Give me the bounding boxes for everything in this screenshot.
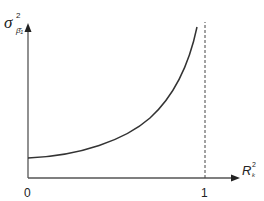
x-axis-label: R 2 k xyxy=(242,164,251,177)
x-label-superscript: 2 xyxy=(252,161,256,168)
x-tick-zero: 0 xyxy=(24,187,31,199)
x-label-subscript: k xyxy=(252,172,255,178)
chart-canvas xyxy=(0,0,264,201)
variance-curve xyxy=(28,27,197,158)
x-axis-arrow-icon xyxy=(231,175,240,182)
y-label-superscript: 2 xyxy=(16,12,20,20)
y-axis-label: σ 2 β̂₁ xyxy=(4,14,12,31)
x-label-symbol: R xyxy=(242,163,251,178)
y-axis-arrow-icon xyxy=(25,23,32,32)
y-label-subscript: β̂₁ xyxy=(16,27,23,35)
y-label-symbol: σ xyxy=(4,13,12,32)
x-tick-one: 1 xyxy=(201,187,208,199)
